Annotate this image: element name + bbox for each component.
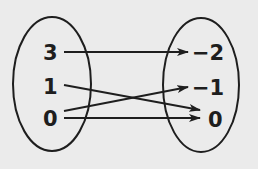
domain-value-1: 1: [43, 75, 58, 99]
domain-value-3: 3: [43, 41, 58, 65]
mapping-diagram: 3 1 0 −2 −1 0: [0, 0, 258, 169]
range-value-neg2: −2: [192, 41, 224, 65]
range-value-neg1: −1: [192, 76, 224, 100]
arrow-0-to-neg1: [64, 87, 188, 111]
domain-value-0: 0: [43, 107, 58, 131]
range-value-0: 0: [208, 108, 223, 132]
